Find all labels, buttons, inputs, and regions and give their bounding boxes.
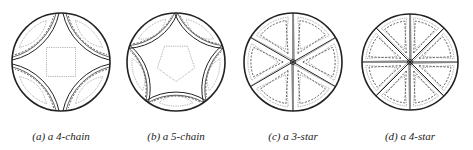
caption-4-chain: (a) a 4-chain: [32, 130, 89, 142]
dashed-arc: [152, 96, 200, 102]
spoke-line: [251, 62, 293, 87]
caption-3-star: (c) a 3-star: [268, 130, 318, 142]
dashed-loop: [385, 71, 407, 103]
dotted-loop: [298, 75, 330, 107]
spoke-line: [410, 28, 444, 62]
diagram-4-star: [362, 14, 458, 110]
dashed-loop: [298, 20, 326, 53]
spoke-line: [293, 38, 335, 63]
dashed-loop: [414, 21, 436, 53]
dashed-loop: [414, 71, 436, 103]
spoke-shadow-line: [410, 14, 411, 62]
dashed-loop: [385, 21, 407, 53]
diagram-4-chain: [12, 13, 110, 111]
spoke-shadow-line: [408, 62, 409, 110]
spoke-shadow-line: [362, 60, 410, 61]
dashed-loop: [251, 47, 283, 76]
dashed-arc: [131, 52, 147, 98]
figure-canvas: [0, 0, 473, 150]
dashed-loop: [419, 66, 451, 88]
spoke-line: [376, 62, 410, 96]
outer-circle: [12, 13, 110, 111]
center-dotted-polygon: [157, 46, 194, 81]
dashed-loop: [303, 47, 335, 76]
center-dotted-polygon: [46, 47, 75, 76]
dashed-arc: [206, 52, 222, 98]
dotted-loop: [257, 17, 289, 49]
dashed-loop: [419, 37, 451, 59]
dashed-loop: [369, 37, 401, 59]
dotted-loop: [138, 19, 166, 39]
diagram-3-star: [244, 13, 342, 111]
dashed-loop: [261, 71, 289, 104]
diagram-5-chain: [127, 13, 225, 111]
spoke-shadow-line: [293, 13, 294, 62]
spoke-line: [410, 62, 444, 96]
dotted-loop: [186, 19, 214, 39]
spoke-line: [376, 28, 410, 62]
dashed-loop: [369, 66, 401, 88]
caption-4-star: (d) a 4-star: [385, 130, 435, 142]
caption-5-chain: (b) a 5-chain: [147, 130, 204, 142]
spoke-shadow-line: [410, 62, 458, 63]
spoke-shadow-line: [291, 62, 292, 111]
